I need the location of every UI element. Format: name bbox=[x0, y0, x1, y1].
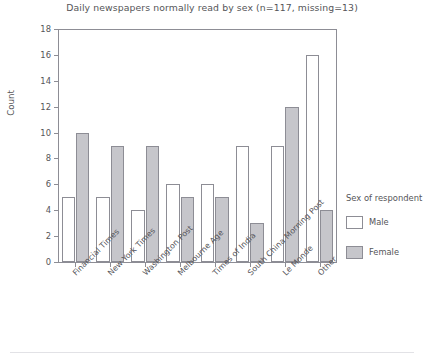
x-tick-mark bbox=[215, 263, 216, 267]
x-tick-mark bbox=[320, 263, 321, 267]
x-tick-mark bbox=[250, 263, 251, 267]
y-axis-label: Count bbox=[6, 68, 16, 138]
bar bbox=[320, 210, 333, 262]
bar bbox=[285, 107, 298, 262]
bar bbox=[166, 184, 179, 262]
legend: Sex of respondent MaleFemale bbox=[346, 193, 422, 275]
legend-item: Male bbox=[346, 215, 422, 229]
bar bbox=[76, 133, 89, 262]
y-tick-label: 14 bbox=[18, 76, 51, 86]
y-tick-label: 2 bbox=[18, 231, 51, 241]
bar bbox=[250, 223, 263, 262]
bar bbox=[131, 210, 144, 262]
legend-label: Female bbox=[369, 247, 399, 257]
chart-title: Daily newspapers normally read by sex (n… bbox=[0, 2, 424, 13]
legend-swatch-female bbox=[346, 246, 363, 259]
bar bbox=[181, 197, 194, 262]
x-tick-mark bbox=[180, 263, 181, 267]
legend-items: MaleFemale bbox=[346, 215, 422, 259]
bar bbox=[201, 184, 214, 262]
bar bbox=[215, 197, 228, 262]
x-tick-mark bbox=[145, 263, 146, 267]
y-tick-label: 8 bbox=[18, 153, 51, 163]
legend-label: Male bbox=[369, 217, 389, 227]
y-tick-label: 12 bbox=[18, 102, 51, 112]
y-tick-label: 18 bbox=[18, 24, 51, 34]
bar bbox=[146, 146, 159, 263]
y-tick-label: 0 bbox=[18, 257, 51, 267]
x-tick-mark bbox=[75, 263, 76, 267]
legend-item: Female bbox=[346, 245, 422, 259]
x-axis-ticks bbox=[58, 263, 337, 269]
x-tick-mark bbox=[285, 263, 286, 267]
bar bbox=[111, 146, 124, 263]
y-tick-label: 6 bbox=[18, 179, 51, 189]
legend-title: Sex of respondent bbox=[346, 193, 422, 203]
bar bbox=[236, 146, 249, 263]
bottom-divider bbox=[10, 352, 414, 353]
y-tick-label: 10 bbox=[18, 128, 51, 138]
y-tick-label: 4 bbox=[18, 205, 51, 215]
bar bbox=[96, 197, 109, 262]
bar bbox=[271, 146, 284, 263]
y-tick-label: 16 bbox=[18, 50, 51, 60]
legend-swatch-male bbox=[346, 216, 363, 229]
bar-chart: Daily newspapers normally read by sex (n… bbox=[0, 0, 424, 362]
bar bbox=[62, 197, 75, 262]
x-tick-mark bbox=[110, 263, 111, 267]
bars-layer bbox=[58, 29, 337, 262]
bar bbox=[306, 55, 319, 262]
